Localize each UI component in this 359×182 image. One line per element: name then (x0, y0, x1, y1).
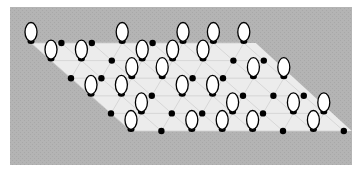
dot-marker (89, 40, 95, 46)
dot-marker (149, 93, 155, 99)
dot-marker (220, 75, 226, 81)
dot-marker (98, 75, 104, 81)
dot-marker (189, 75, 195, 81)
dot-marker (199, 110, 205, 116)
lattice-diagram (0, 0, 359, 182)
dot-marker (270, 93, 276, 99)
dot-marker (108, 110, 114, 116)
dot-marker (341, 128, 347, 134)
dot-marker (58, 40, 64, 46)
dot-marker (149, 40, 155, 46)
dot-marker (158, 128, 164, 134)
dot-marker (68, 75, 74, 81)
dot-marker (260, 110, 266, 116)
dot-marker (261, 57, 267, 63)
dot-marker (169, 110, 175, 116)
dot-marker (240, 93, 246, 99)
dot-marker (280, 128, 286, 134)
dot-marker (230, 57, 236, 63)
dot-marker (301, 93, 307, 99)
dot-marker (109, 57, 115, 63)
